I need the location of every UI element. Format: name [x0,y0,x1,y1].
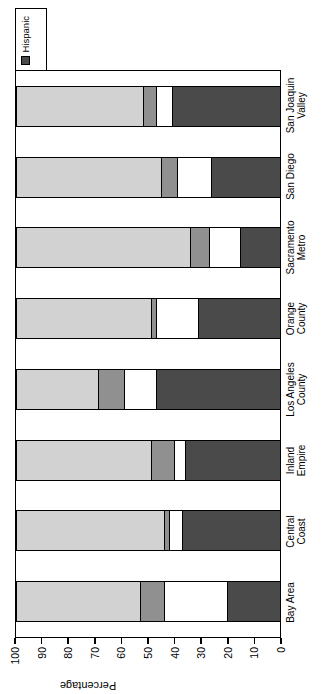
y-axis-tick-label: 70 [89,647,101,669]
plot-area [15,70,281,638]
bar-segment[interactable] [240,228,280,267]
bar-segment[interactable] [16,582,140,621]
stacked-bar[interactable] [16,86,280,127]
y-axis-tick-label: 60 [115,647,127,669]
x-axis-category-label: San Joaquin Valley [281,70,329,141]
y-axis-tick-mark [14,638,16,644]
x-axis: Bay AreaCentral CoastInland EmpireLos An… [281,70,329,638]
y-axis-tick-mark [280,638,282,644]
y-axis-tick: 70 [89,638,101,669]
x-axis-category-label: Sacramento Metro [281,212,329,283]
y-axis-tick: 10 [248,638,260,669]
bar-column[interactable] [16,354,280,425]
bar-segment[interactable] [140,582,164,621]
bar-segment[interactable] [16,370,98,409]
bar-segment[interactable] [156,370,280,409]
bar-segment[interactable] [190,228,208,267]
stacked-bar[interactable] [16,510,280,551]
bar-column[interactable] [16,71,280,142]
stacked-bar[interactable] [16,157,280,198]
y-axis-title: Percentage [28,680,148,692]
bar-segment[interactable] [164,582,227,621]
bar-column[interactable] [16,283,280,354]
y-axis-tick-mark [41,638,43,644]
y-axis-tick-mark [200,638,202,644]
y-axis-tick-mark [94,638,96,644]
y-axis-tick-mark [147,638,149,644]
y-axis-tick: 40 [169,638,181,669]
stacked-bar[interactable] [16,227,280,268]
bar-segment[interactable] [172,87,280,126]
stacked-bar[interactable] [16,298,280,339]
y-axis-tick-label: 10 [248,647,260,669]
y-axis-tick: 90 [36,638,48,669]
bar-segment[interactable] [98,370,124,409]
bar-segment[interactable] [156,299,198,338]
bar-segment[interactable] [151,441,175,480]
bar-segment[interactable] [16,441,151,480]
bar-segment[interactable] [169,511,182,550]
stacked-bar-chart: WhiteBlackAsianAmerican IndianHispanic 0… [0,0,336,694]
y-axis-tick-label: 90 [36,647,48,669]
y-axis-tick-mark [121,638,123,644]
y-axis-tick-mark [174,638,176,644]
stacked-bar[interactable] [16,369,280,410]
x-axis-category-label: San Diego [281,141,329,212]
bar-segment[interactable] [177,158,211,197]
y-axis-tick-mark [254,638,256,644]
bar-segment[interactable] [209,228,241,267]
bar-segment[interactable] [16,87,143,126]
y-axis-tick-label: 40 [169,647,181,669]
y-axis-tick-mark [227,638,229,644]
bar-column[interactable] [16,566,280,637]
bar-segment[interactable] [174,441,185,480]
bar-column[interactable] [16,496,280,567]
bar-group [16,71,280,637]
bar-segment[interactable] [16,299,151,338]
bar-segment[interactable] [143,87,156,126]
bar-column[interactable] [16,213,280,284]
bar-segment[interactable] [16,228,190,267]
y-axis-tick: 80 [62,638,74,669]
y-axis-tick: 0 [275,638,287,669]
bar-segment[interactable] [227,582,280,621]
legend-swatch-icon [21,56,30,65]
x-axis-category-label: Bay Area [281,567,329,638]
legend-item: Hispanic [21,16,31,65]
bar-segment[interactable] [124,370,156,409]
y-axis-tick-label: 0 [275,647,287,669]
stacked-bar[interactable] [16,581,280,622]
x-axis-category-label: Los Angeles County [281,354,329,425]
stacked-bar[interactable] [16,440,280,481]
bar-column[interactable] [16,425,280,496]
x-axis-category-label: Inland Empire [281,425,329,496]
legend-label: Hispanic [21,16,31,52]
bar-column[interactable] [16,142,280,213]
y-axis-tick-mark [67,638,69,644]
y-axis-tick-label: 100 [9,647,21,669]
bar-segment[interactable] [185,441,280,480]
y-axis-tick: 50 [142,638,154,669]
y-axis-tick-label: 20 [222,647,234,669]
y-axis-tick: 30 [195,638,207,669]
bar-segment[interactable] [198,299,280,338]
bar-segment[interactable] [182,511,280,550]
y-axis-tick-label: 80 [62,647,74,669]
chart-figure-rotated: WhiteBlackAsianAmerican IndianHispanic 0… [0,0,336,694]
bar-segment[interactable] [156,87,172,126]
y-axis-tick: 20 [222,638,234,669]
y-axis-tick: 60 [115,638,127,669]
x-axis-category-label: Central Coast [281,496,329,567]
bar-segment[interactable] [16,158,161,197]
bar-segment[interactable] [161,158,177,197]
y-axis-tick: 100 [9,638,21,669]
x-axis-category-label: Orange County [281,283,329,354]
bar-segment[interactable] [16,511,164,550]
y-axis-tick-label: 50 [142,647,154,669]
bar-segment[interactable] [211,158,280,197]
y-axis-tick-label: 30 [195,647,207,669]
